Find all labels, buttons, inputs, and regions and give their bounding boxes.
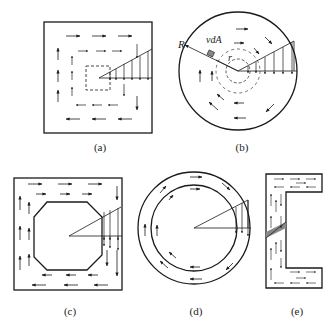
panel-label-c: (c)	[64, 305, 76, 317]
panel-label-d: (d)	[190, 305, 203, 317]
panel-label-e: (e)	[291, 305, 303, 317]
panel-c-square-tube-section	[14, 178, 122, 290]
panel-label-b: (b)	[236, 141, 249, 153]
symbol-r: r	[228, 52, 232, 63]
panel-d-annular-section	[138, 172, 251, 284]
panel-label-a: (a)	[94, 141, 106, 153]
panel-a-square-section	[44, 22, 152, 133]
symbol-vdA: vdA	[206, 34, 222, 45]
panel-b-circular-section	[179, 12, 297, 130]
panel-e-channel-section	[266, 174, 322, 288]
symbol-R: R	[178, 38, 185, 50]
torsion-shear-diagram	[0, 0, 336, 333]
